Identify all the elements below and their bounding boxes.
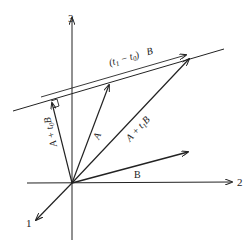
diagram-canvas: 3 2 1 A B A + t0B A + t1B — [0, 0, 249, 250]
axis-1-label: 1 — [26, 217, 32, 229]
label-A-plus-t1B: A + t1B — [123, 114, 154, 146]
label-B: B — [134, 169, 141, 180]
vector-A — [72, 85, 109, 183]
vector-B — [72, 152, 188, 183]
svg-text:A + t1B: A + t1B — [123, 114, 154, 146]
label-A-plus-t0B: A + t0B — [41, 116, 61, 149]
svg-text:A + t0B: A + t0B — [41, 116, 61, 149]
vector-line-diagram: 3 2 1 A B A + t0B A + t1B — [0, 0, 249, 250]
label-A: A — [90, 130, 103, 142]
axis-3-label: 3 — [68, 12, 74, 24]
svg-text:B: B — [134, 169, 141, 180]
vector-A-plus-t1B — [72, 59, 189, 183]
axis-2-label: 2 — [237, 176, 243, 188]
axis-2 — [27, 182, 232, 183]
axis-1 — [36, 183, 72, 220]
